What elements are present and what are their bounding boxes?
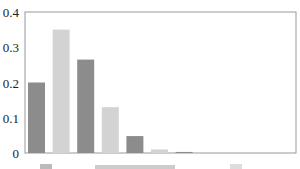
bar — [102, 107, 119, 153]
bars — [28, 30, 193, 153]
y-tick-label: 0.1 — [3, 111, 19, 126]
y-tick-label: 0.4 — [3, 5, 20, 20]
bar — [77, 60, 94, 153]
bar — [151, 149, 168, 153]
y-axis: 00.10.20.30.4 — [3, 5, 20, 161]
bar — [53, 30, 70, 153]
bar — [126, 136, 143, 153]
legend-label-blur — [95, 165, 175, 169]
bar-chart: 00.10.20.30.4 — [0, 0, 300, 169]
bar — [176, 152, 193, 153]
legend-swatch — [40, 164, 52, 169]
y-tick-label: 0.3 — [3, 40, 19, 55]
y-tick-label: 0 — [13, 146, 20, 161]
bar — [28, 83, 45, 154]
legend — [40, 164, 242, 169]
y-tick-label: 0.2 — [3, 76, 19, 91]
legend-swatch — [230, 164, 242, 169]
